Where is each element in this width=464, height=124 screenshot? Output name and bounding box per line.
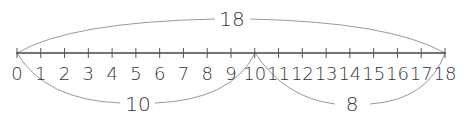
tick-label-12: 12 — [291, 63, 314, 84]
arc-top-right — [250, 19, 445, 53]
arc-bottom-right-label: 8 — [346, 92, 359, 116]
tick-label-8: 8 — [201, 63, 212, 84]
tick-label-10: 10 — [243, 63, 266, 84]
tick-label-6: 6 — [154, 63, 165, 84]
tick-label-16: 16 — [386, 63, 409, 84]
tick-label-18: 18 — [434, 63, 457, 84]
arc-top — [17, 19, 215, 53]
tick-labels: 0123456789101112131415161718 — [11, 63, 456, 84]
tick-label-4: 4 — [106, 63, 117, 84]
tick-label-17: 17 — [410, 63, 433, 84]
arc-bottom-left-label: 10 — [125, 92, 150, 116]
tick-label-11: 11 — [267, 63, 290, 84]
tick-label-14: 14 — [338, 63, 361, 84]
tick-label-9: 9 — [225, 63, 236, 84]
arc-top-label: 18 — [219, 7, 244, 31]
tick-label-13: 13 — [315, 63, 338, 84]
number-line-diagram: 18 10 8 0123456789101112131415161718 — [0, 0, 464, 124]
tick-label-5: 5 — [130, 63, 141, 84]
tick-label-0: 0 — [11, 63, 22, 84]
tick-label-3: 3 — [83, 63, 94, 84]
tick-label-1: 1 — [35, 63, 46, 84]
tick-label-2: 2 — [59, 63, 70, 84]
tick-label-7: 7 — [178, 63, 189, 84]
tick-label-15: 15 — [362, 63, 385, 84]
